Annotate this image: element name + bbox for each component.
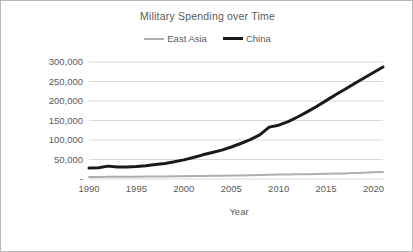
x-axis-tick-label: 2015	[306, 183, 346, 194]
x-axis-tick-label: 1995	[116, 183, 156, 194]
x-axis-tick-label: 2010	[259, 183, 299, 194]
gridlines	[89, 62, 383, 179]
x-axis-title: Year	[89, 206, 389, 217]
x-axis-tick-label: 2000	[164, 183, 204, 194]
series-line-china[interactable]	[89, 67, 383, 168]
x-axis-tick-labels: 1990199520002005201020152020	[89, 183, 389, 199]
series-lines	[89, 67, 383, 177]
x-axis-tick-label: 2020	[354, 183, 394, 194]
x-axis-tick-label: 1990	[69, 183, 109, 194]
x-axis-tick-label: 2005	[211, 183, 251, 194]
chart-container: Military Spending over Time East Asia Ch…	[0, 0, 413, 252]
series-line-east-asia[interactable]	[89, 172, 383, 177]
